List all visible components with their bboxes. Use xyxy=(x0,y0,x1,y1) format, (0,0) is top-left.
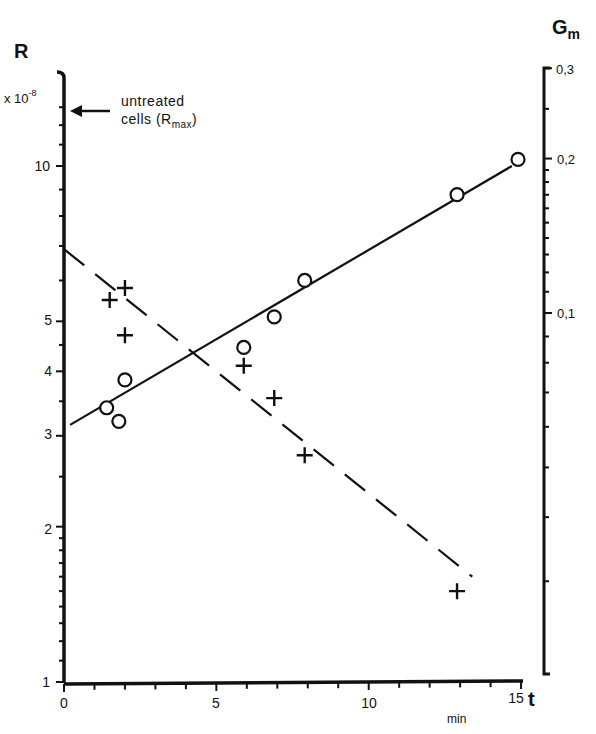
arrow-left-icon xyxy=(70,105,110,117)
data-point-cross xyxy=(297,447,313,463)
right-axis xyxy=(544,68,552,674)
x-unit-label: min xyxy=(447,712,466,726)
svg-text:0,1: 0,1 xyxy=(557,306,575,321)
svg-text:cells (Rmax): cells (Rmax) xyxy=(121,111,197,130)
svg-text:2: 2 xyxy=(44,521,52,537)
y-axis-label: R xyxy=(14,40,29,62)
svg-text:0,3: 0,3 xyxy=(556,62,574,77)
data-point-circle xyxy=(118,373,131,386)
circle-series xyxy=(70,153,524,428)
chart: R x 10-8 Gm 10 5 4 3 2 1 0 5 10 15 t min… xyxy=(0,0,596,734)
untreated-cells-annotation: untreated cells (Rmax) xyxy=(70,93,197,130)
svg-text:0: 0 xyxy=(60,695,68,711)
svg-text:5: 5 xyxy=(44,312,52,328)
data-point-circle xyxy=(298,274,311,287)
svg-text:4: 4 xyxy=(44,363,52,379)
data-point-circle xyxy=(451,188,464,201)
data-point-cross xyxy=(117,327,133,343)
svg-text:10: 10 xyxy=(361,695,377,711)
svg-text:3: 3 xyxy=(44,426,52,442)
x-axis-label: t xyxy=(528,688,535,710)
data-point-cross xyxy=(266,390,282,406)
left-tick-labels: 10 5 4 3 2 1 xyxy=(34,158,52,690)
data-point-circle xyxy=(100,401,113,414)
bottom-axis xyxy=(64,681,523,692)
y2-axis-label: Gm xyxy=(552,16,580,42)
left-axis xyxy=(56,72,64,683)
fit-line-solid xyxy=(70,166,512,425)
svg-text:1: 1 xyxy=(42,674,50,690)
data-point-circle xyxy=(237,341,250,354)
right-tick-labels: 0,3 0,2 0,1 xyxy=(556,62,575,321)
data-point-cross xyxy=(117,280,133,296)
fit-line-dashed xyxy=(64,249,472,577)
svg-text:0,2: 0,2 xyxy=(557,152,575,167)
y-multiplier-label: x 10-8 xyxy=(4,88,37,106)
svg-text:untreated: untreated xyxy=(121,93,185,109)
data-point-cross xyxy=(102,292,118,308)
plot-area xyxy=(64,153,525,599)
svg-text:5: 5 xyxy=(212,695,220,711)
data-point-cross xyxy=(236,358,252,374)
bottom-tick-labels: 0 5 10 15 xyxy=(60,690,524,711)
data-point-circle xyxy=(512,153,525,166)
data-point-circle xyxy=(112,415,125,428)
svg-text:15: 15 xyxy=(508,690,524,706)
data-point-cross xyxy=(449,583,465,599)
data-point-circle xyxy=(268,310,281,323)
svg-text:10: 10 xyxy=(34,158,50,174)
